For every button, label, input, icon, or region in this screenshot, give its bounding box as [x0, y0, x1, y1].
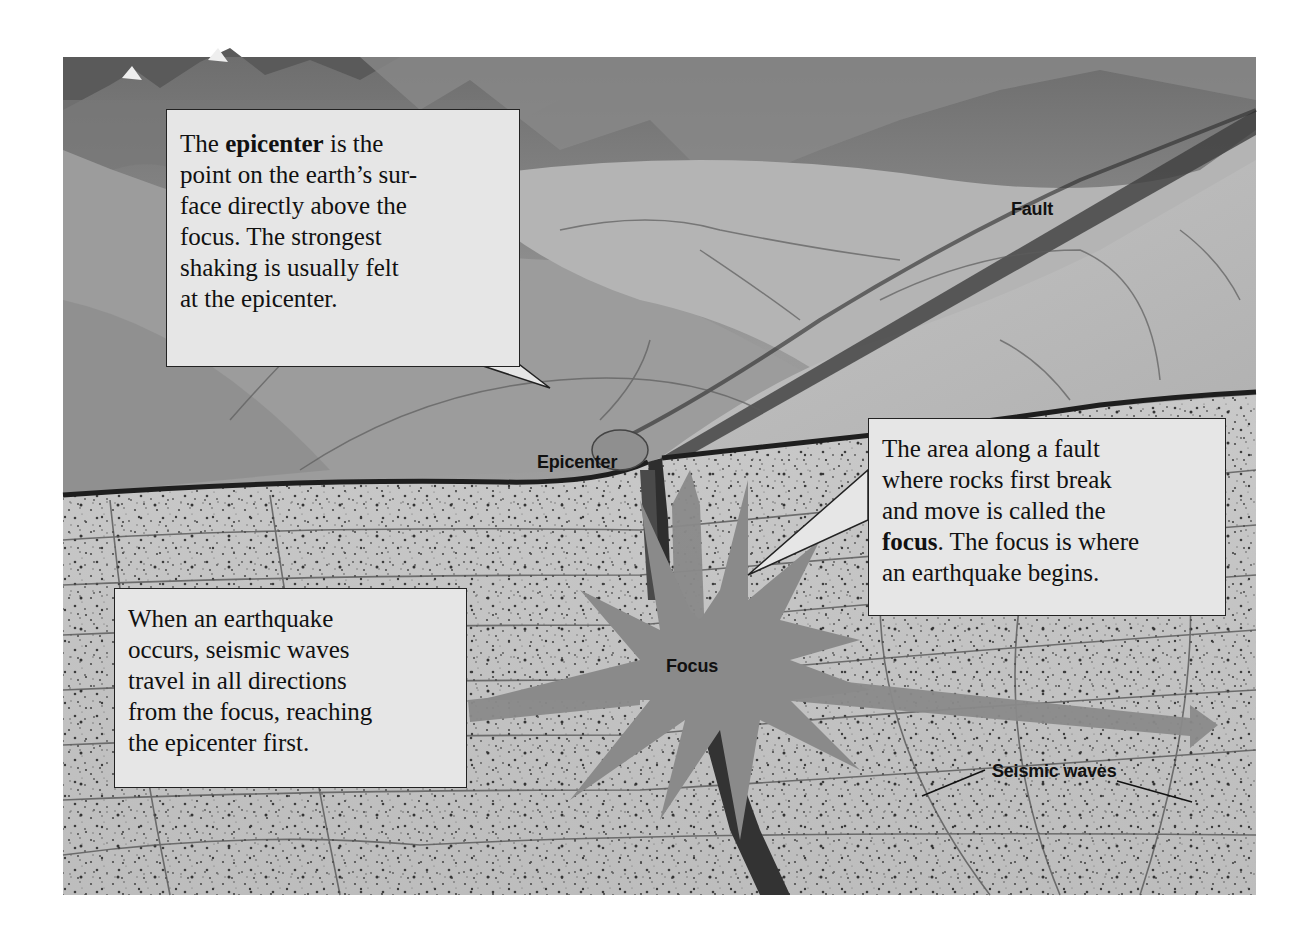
callout-line: face directly above the — [180, 190, 507, 221]
earthquake-diagram: The epicenter is the point on the earth’… — [0, 0, 1316, 943]
callout-line: travel in all directions — [128, 665, 454, 696]
callout-line: where rocks first break — [882, 464, 1213, 495]
callout-line: an earthquake begins. — [882, 557, 1213, 588]
term-focus: focus — [882, 528, 938, 555]
callout-line: at the epicenter. — [180, 283, 507, 314]
label-focus: Focus — [666, 656, 718, 677]
term-epicenter: epicenter — [225, 130, 324, 157]
callout-line: The area along a fault — [882, 433, 1213, 464]
callout-line: occurs, seismic waves — [128, 634, 454, 665]
label-fault: Fault — [1011, 199, 1053, 220]
label-epicenter: Epicenter — [537, 452, 617, 473]
callout-line: focus. The strongest — [180, 221, 507, 252]
callout-line: the epicenter first. — [128, 727, 454, 758]
label-seismic-waves: Seismic waves — [992, 761, 1117, 782]
callout-line: from the focus, reaching — [128, 696, 454, 727]
callout-seismic-waves: When an earthquake occurs, seismic waves… — [114, 588, 467, 788]
callout-epicenter: The epicenter is the point on the earth’… — [166, 109, 520, 367]
callout-line: When an earthquake — [128, 603, 454, 634]
callout-line: shaking is usually felt — [180, 252, 507, 283]
callout-line: point on the earth’s sur- — [180, 159, 507, 190]
callout-line: and move is called the — [882, 495, 1213, 526]
callout-focus: The area along a fault where rocks first… — [868, 418, 1226, 616]
